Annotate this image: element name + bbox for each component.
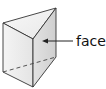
face-label: face: [76, 33, 106, 49]
triangular-prism-diagram: face: [0, 0, 106, 89]
